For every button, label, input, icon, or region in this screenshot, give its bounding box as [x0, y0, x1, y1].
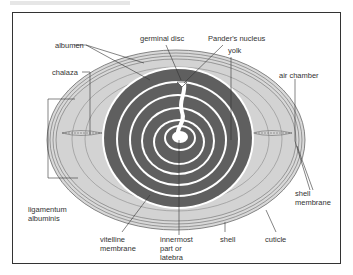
label-innermost-line2: part or [160, 244, 182, 253]
label-cuticle: cuticle [265, 235, 286, 244]
label-germinal-disc: germinal disc [140, 34, 184, 43]
label-ligamentum-line1: ligamentum [28, 205, 67, 214]
label-panders-nucleus: Pander's nucleus [208, 34, 265, 43]
label-innermost-line1: innermost [160, 235, 193, 244]
label-yolk: yolk [228, 46, 241, 55]
label-ligamentum-line2: albuminis [28, 214, 60, 223]
label-shell-membrane-line2: membrane [295, 198, 331, 207]
label-chalaza: chalaza [52, 68, 78, 77]
label-vitelline-line2: membrane [100, 244, 136, 253]
label-innermost-line3: latebra [160, 253, 183, 262]
label-shell: shell [220, 235, 235, 244]
label-albumen: albumen [55, 41, 84, 50]
label-shell-membrane-line1: shell [295, 189, 310, 198]
label-air-chamber: air chamber [279, 71, 319, 80]
label-vitelline-line1: vitelline [100, 235, 125, 244]
